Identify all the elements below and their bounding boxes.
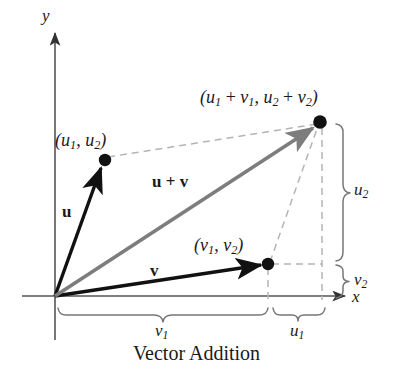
vector-u-arrow xyxy=(55,168,101,296)
point-sum-label-var1: u xyxy=(206,87,215,107)
dot-point-u xyxy=(99,154,111,166)
brace-v2-sub: 2 xyxy=(362,278,368,291)
brace-v2-label: v2 xyxy=(354,271,367,288)
brace-u1-var: u xyxy=(290,321,299,340)
point-u-label-close: ) xyxy=(100,130,106,150)
braces xyxy=(58,124,350,322)
dashed-v-to-sum xyxy=(270,126,318,262)
dashed-u-to-sum xyxy=(108,124,317,157)
point-u-label-sep: , xyxy=(76,130,85,150)
vector-u-plus-v-arrow xyxy=(55,128,313,296)
point-v-label-var1: v xyxy=(200,235,208,255)
point-v-label: (v1, v2) xyxy=(194,236,243,254)
brace-v1-sub: 1 xyxy=(163,329,169,342)
point-v-label-sep: , xyxy=(214,235,223,255)
point-sum-label: (u1 + v1, u2 + v2) xyxy=(200,88,318,106)
brace-v2-var: v xyxy=(354,270,362,289)
point-sum-label-op1: + xyxy=(221,87,240,107)
brace-v2-shape xyxy=(336,265,349,298)
brace-v1-label: v1 xyxy=(155,322,168,339)
vector-v-label: v xyxy=(150,262,159,279)
y-axis-label: y xyxy=(42,7,50,24)
brace-u2-sub: 2 xyxy=(363,188,369,201)
brace-u2-var: u xyxy=(354,180,363,199)
vectors xyxy=(55,128,313,296)
point-sum-label-op2: + xyxy=(279,87,298,107)
point-v-label-close: ) xyxy=(237,235,243,255)
point-v-label-var2: v xyxy=(223,235,231,255)
dot-point-sum xyxy=(313,115,327,129)
brace-v1-var: v xyxy=(155,321,163,340)
figure-canvas xyxy=(0,0,393,372)
point-u-label-var2: u xyxy=(85,130,94,150)
brace-u1-shape xyxy=(273,308,325,321)
point-u-label: (u1, u2) xyxy=(55,131,106,149)
vector-u-plus-v-label: u + v xyxy=(152,173,188,190)
brace-u1-label: u1 xyxy=(290,322,304,339)
brace-v1-shape xyxy=(58,308,268,322)
brace-u1-sub: 1 xyxy=(299,329,305,342)
point-sum-label-var4: v xyxy=(298,87,306,107)
point-sum-label-close: ) xyxy=(312,87,318,107)
point-u-label-var1: u xyxy=(61,130,70,150)
vector-sum-label-op: + xyxy=(161,172,179,191)
vector-addition-figure: y x (u1, u2) (v1, v2) (u1 + v1, u2 + v2)… xyxy=(0,0,393,372)
vector-sum-label-v: v xyxy=(180,172,189,191)
brace-u2-shape xyxy=(336,124,350,261)
brace-u2-label: u2 xyxy=(354,181,368,198)
x-axis-label: x xyxy=(352,288,360,305)
dot-point-v xyxy=(262,258,274,270)
vector-u-label: u xyxy=(62,203,71,220)
figure-caption: Vector Addition xyxy=(0,343,393,363)
